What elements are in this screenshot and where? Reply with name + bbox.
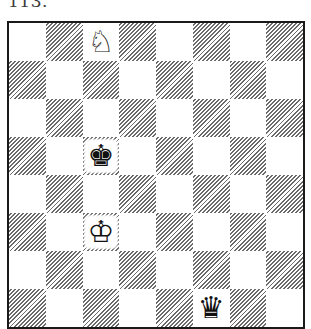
square-g1	[230, 289, 267, 327]
square-a6	[9, 99, 46, 137]
square-e7	[156, 61, 193, 99]
square-e5	[156, 137, 193, 175]
square-c6	[83, 99, 120, 137]
square-e3	[156, 213, 193, 251]
square-f3	[193, 213, 230, 251]
square-h5	[266, 137, 303, 175]
square-d3	[119, 213, 156, 251]
square-a4	[9, 175, 46, 213]
square-f5	[193, 137, 230, 175]
square-e4	[156, 175, 193, 213]
square-f6	[193, 99, 230, 137]
square-f8	[193, 23, 230, 61]
square-a8	[9, 23, 46, 61]
square-g4	[230, 175, 267, 213]
square-d7	[119, 61, 156, 99]
square-e1	[156, 289, 193, 327]
square-d8	[119, 23, 156, 61]
chess-board: ♘♚♔♛	[7, 21, 305, 329]
square-c1	[83, 289, 120, 327]
square-b1	[46, 289, 83, 327]
square-a5	[9, 137, 46, 175]
square-b6	[46, 99, 83, 137]
square-e8	[156, 23, 193, 61]
square-f7	[193, 61, 230, 99]
square-e2	[156, 251, 193, 289]
square-h6	[266, 99, 303, 137]
square-d2	[119, 251, 156, 289]
square-c2	[83, 251, 120, 289]
square-a2	[9, 251, 46, 289]
square-h8	[266, 23, 303, 61]
square-g8	[230, 23, 267, 61]
white-knight-icon: ♘	[86, 27, 116, 57]
square-a3	[9, 213, 46, 251]
square-h3	[266, 213, 303, 251]
square-h2	[266, 251, 303, 289]
black-queen-icon: ♛	[196, 293, 226, 323]
diagram-number: 113.	[8, 0, 48, 11]
square-e6	[156, 99, 193, 137]
square-b3	[46, 213, 83, 251]
square-h7	[266, 61, 303, 99]
square-d6	[119, 99, 156, 137]
square-d1	[119, 289, 156, 327]
black-king-icon: ♚	[86, 141, 116, 171]
square-c5: ♚	[83, 137, 120, 175]
square-d5	[119, 137, 156, 175]
square-a1	[9, 289, 46, 327]
square-f1: ♛	[193, 289, 230, 327]
square-d4	[119, 175, 156, 213]
square-c7	[83, 61, 120, 99]
square-b7	[46, 61, 83, 99]
square-b4	[46, 175, 83, 213]
square-f2	[193, 251, 230, 289]
square-c8: ♘	[83, 23, 120, 61]
square-c4	[83, 175, 120, 213]
square-c3: ♔	[83, 213, 120, 251]
square-b2	[46, 251, 83, 289]
square-g7	[230, 61, 267, 99]
square-g5	[230, 137, 267, 175]
square-a7	[9, 61, 46, 99]
square-b8	[46, 23, 83, 61]
white-king-icon: ♔	[86, 217, 116, 247]
square-h1	[266, 289, 303, 327]
square-h4	[266, 175, 303, 213]
square-g6	[230, 99, 267, 137]
square-g2	[230, 251, 267, 289]
square-f4	[193, 175, 230, 213]
square-g3	[230, 213, 267, 251]
square-b5	[46, 137, 83, 175]
